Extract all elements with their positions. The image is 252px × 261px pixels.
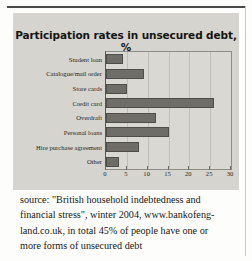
bar	[106, 98, 214, 108]
source-note: source: "British household indebtedness …	[20, 192, 236, 254]
bar	[106, 113, 156, 123]
x-tick-label: 10	[143, 170, 150, 177]
bar-row: Other	[106, 154, 231, 169]
category-label: Hire purchase agreement	[36, 144, 102, 151]
bar	[106, 157, 119, 167]
bar	[106, 142, 139, 152]
x-tick-label: 25	[206, 170, 213, 177]
bar	[106, 84, 127, 94]
category-label: Catalogue/mail order	[46, 70, 102, 77]
bar-row: Hire purchase agreement	[106, 140, 231, 155]
category-label: Overdraft	[76, 114, 102, 121]
category-label: Credit card	[73, 100, 102, 107]
x-tick-label: 15	[164, 170, 171, 177]
x-tick-label: 20	[185, 170, 192, 177]
source-line: more forms of unsecured debt	[20, 238, 236, 253]
category-label: Other	[87, 158, 102, 165]
category-label: Store cards	[73, 85, 102, 92]
chart-panel: Participation rates in unsecured debt, %…	[13, 13, 239, 190]
x-tick-label: 5	[124, 170, 127, 177]
x-tick-label: 0	[103, 170, 106, 177]
bar	[106, 54, 123, 64]
bar-row: Student loan	[106, 52, 231, 67]
page-right-rule	[245, 6, 246, 256]
category-label: Personal loans	[64, 129, 102, 136]
bar	[106, 127, 169, 137]
bar-rows: Student loanCatalogue/mail orderStore ca…	[106, 52, 231, 169]
source-line: source: "British household indebtedness …	[20, 192, 236, 207]
x-tick-label: 30	[227, 170, 234, 177]
x-axis-ticks: 051015202530	[105, 170, 230, 182]
bar-row: Store cards	[106, 81, 231, 96]
chart-title: Participation rates in unsecured debt, %	[13, 29, 239, 53]
bar-row: Personal loans	[106, 125, 231, 140]
page-top-rule	[7, 6, 245, 8]
source-line: land.co.uk, in total 45% of people have …	[20, 223, 236, 238]
plot-area: Student loanCatalogue/mail orderStore ca…	[105, 51, 232, 170]
category-label: Student loan	[69, 56, 102, 63]
bar-row: Credit card	[106, 96, 231, 111]
source-line: financial stress", winter 2004, www.bank…	[20, 207, 236, 222]
bar	[106, 69, 144, 79]
bar-row: Overdraft	[106, 111, 231, 126]
figure-page: Participation rates in unsecured debt, %…	[0, 0, 252, 261]
bar-row: Catalogue/mail order	[106, 67, 231, 82]
